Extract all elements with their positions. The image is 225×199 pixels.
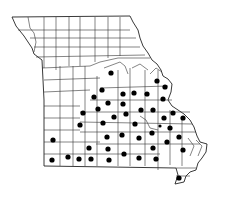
county-marker-dot bbox=[160, 96, 165, 101]
county-marker-dot bbox=[105, 146, 110, 151]
county-marker-dot bbox=[119, 132, 124, 137]
county-marker-dot bbox=[50, 137, 55, 142]
county-marker-dot bbox=[164, 139, 169, 144]
county-marker-dot bbox=[149, 130, 154, 135]
county-marker-dot bbox=[150, 145, 155, 150]
county-marker-dot bbox=[131, 90, 136, 95]
county-marker-dot bbox=[88, 156, 93, 161]
county-marker-dot bbox=[121, 151, 126, 156]
county-marker-dot bbox=[136, 135, 141, 140]
county-marker-dot bbox=[176, 134, 181, 139]
county-marker-dot bbox=[150, 107, 155, 112]
county-marker-dot bbox=[91, 94, 96, 99]
county-marker-dot bbox=[123, 111, 128, 116]
county-marker-dot bbox=[100, 120, 105, 125]
county-marker-dot bbox=[108, 70, 113, 75]
county-marker-dot bbox=[180, 147, 185, 152]
county-marker-dot bbox=[86, 145, 91, 150]
county-marker-dot bbox=[77, 122, 82, 127]
county-lines bbox=[18, 17, 202, 176]
county-marker-dot bbox=[65, 154, 70, 159]
county-marker-dot bbox=[104, 134, 109, 139]
county-marker-dot bbox=[180, 115, 185, 120]
county-marker-dot bbox=[176, 175, 181, 180]
county-marker-dot bbox=[132, 121, 137, 126]
county-marker-dot bbox=[99, 87, 104, 92]
county-marker-dot bbox=[161, 115, 166, 120]
county-marker-dot bbox=[144, 91, 149, 96]
county-marker-dot bbox=[158, 124, 161, 127]
county-marker-dot bbox=[154, 78, 159, 83]
county-marker-dot bbox=[80, 110, 85, 115]
county-marker-dot bbox=[95, 106, 100, 111]
county-marker-dot bbox=[111, 114, 116, 119]
county-marker-dot bbox=[76, 156, 81, 161]
county-marker-dot bbox=[120, 101, 125, 106]
occurrence-markers bbox=[49, 70, 185, 180]
county-marker-dot bbox=[136, 155, 141, 160]
county-marker-dot bbox=[120, 91, 125, 96]
county-marker-dot bbox=[49, 157, 54, 162]
missouri-county-map bbox=[0, 0, 225, 199]
county-marker-dot bbox=[105, 100, 110, 105]
county-marker-dot bbox=[170, 110, 175, 115]
map-canvas bbox=[0, 0, 225, 199]
county-marker-dot bbox=[138, 107, 143, 112]
county-marker-dot bbox=[106, 157, 111, 162]
county-marker-dot bbox=[153, 156, 158, 161]
county-marker-dot bbox=[167, 125, 172, 130]
county-marker-dot bbox=[162, 84, 167, 89]
